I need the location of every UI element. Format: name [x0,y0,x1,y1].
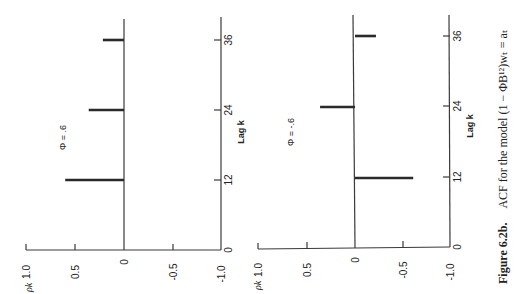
lag-tick-label: 36 [452,30,463,42]
rho-tick-label: -0.5 [398,261,409,279]
rho-axis-label: ρk [23,282,34,293]
lag-tick-label: 12 [452,171,463,183]
rho-tick-label: 0 [119,259,130,265]
rho-tick-label: 1.0 [21,265,32,279]
caption-label: Figure 6.2b. [496,223,510,284]
lag-tick-label: 36 [223,34,234,46]
rho-axis [258,247,450,249]
rho-tick-label: 0 [350,257,361,263]
acf-bars [65,40,124,180]
phi-label: Φ = -.6 [286,118,296,146]
lag-tick-label: 12 [223,174,234,186]
rho-tick-label: 0.5 [302,263,313,277]
rho-tick-label: 0.5 [70,265,81,279]
lag-axis [449,15,450,247]
caption-text: ACF for the model (1 − ΦB¹²)wₜ = aₜ [496,29,510,208]
rho-tick-label: -1.0 [216,265,227,283]
rho-axis-label: ρk [252,280,263,291]
panel-phi-negative: 1.0 0.5 0 -0.5 -1.0 ρk 0 12 24 36 Lag k … [252,15,475,291]
lag-tick-label: 0 [223,247,234,253]
lag-tick-label: 24 [223,104,234,116]
zero-line [353,15,355,248]
rho-tick-label: -0.5 [168,263,179,281]
acf-bars [320,36,413,178]
lag-axis-label: Lag k [236,119,246,144]
phi-label: Φ = .6 [58,125,68,150]
rho-tick-label: -1.0 [445,263,456,281]
rho-tick-label: 1.0 [253,263,264,277]
svg-text:Figure 6.2b. ACF for the: Figure 6.2b. ACF for the model (1 − ΦB¹²… [493,29,510,284]
lag-tick-label: 24 [452,100,463,112]
figure-caption: Figure 6.2b. ACF for the model (1 − ΦB¹²… [493,29,510,284]
lag-tick-label: 0 [452,244,463,250]
panel-phi-positive: 1.0 0.5 0 -0.5 -1.0 ρk 0 12 24 36 Lag k … [21,17,246,293]
acf-figure: 1.0 0.5 0 -0.5 -1.0 ρk 0 12 24 36 Lag k … [0,0,523,294]
lag-axis-label: Lag k [465,113,475,138]
